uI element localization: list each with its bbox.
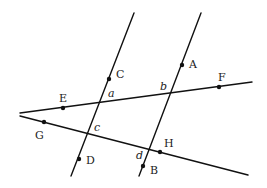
labels-group: ABCDEFGH — [35, 58, 226, 177]
angle-label-c: c — [94, 121, 100, 134]
point-a — [180, 63, 184, 67]
point-label-c: C — [116, 68, 124, 81]
point-c — [107, 77, 111, 81]
point-label-d: D — [86, 154, 95, 167]
geometry-diagram: ABCDEFGH abcd — [0, 0, 267, 188]
point-b — [141, 164, 145, 168]
angle-label-d: d — [136, 149, 143, 162]
point-label-h: H — [164, 137, 174, 150]
point-label-b: B — [150, 164, 158, 177]
points-group — [42, 63, 221, 168]
point-label-g: G — [35, 129, 44, 142]
point-g — [42, 120, 46, 124]
angle-label-a: a — [108, 87, 115, 100]
point-f — [217, 85, 221, 89]
angle-label-b: b — [160, 80, 167, 93]
line-GH — [20, 116, 248, 175]
angle-labels-group: abcd — [94, 80, 167, 162]
point-d — [77, 157, 81, 161]
point-label-a: A — [188, 58, 198, 71]
line-AB — [139, 13, 201, 176]
point-e — [61, 106, 65, 110]
point-h — [158, 150, 162, 154]
point-label-f: F — [218, 71, 226, 84]
line-CD — [71, 13, 134, 176]
point-label-e: E — [59, 92, 67, 105]
